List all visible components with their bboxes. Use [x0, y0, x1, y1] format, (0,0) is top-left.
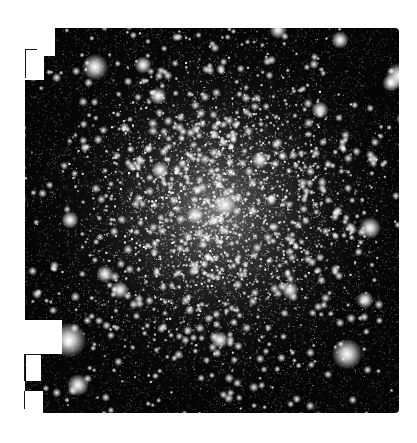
mask-border-line	[25, 49, 37, 50]
top-left-notch-mask	[25, 49, 44, 80]
top-left-step-lower-mask	[44, 28, 55, 56]
bottom-left-foot-mask	[25, 391, 43, 413]
globular-cluster-image	[0, 0, 417, 443]
mask-border-line	[24, 354, 25, 381]
mask-border-line	[25, 49, 26, 78]
star-field	[0, 0, 417, 443]
mask-border-line	[24, 354, 42, 355]
bottom-left-box-mask	[26, 355, 41, 381]
bottom-left-notch-mask	[25, 320, 62, 354]
mask-border-line	[24, 391, 25, 409]
